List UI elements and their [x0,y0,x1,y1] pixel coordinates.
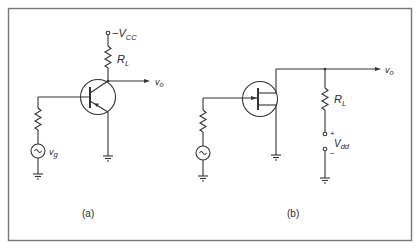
fet-transistor-icon [243,82,278,117]
source-resistor-icon [200,110,206,132]
vg-label: vg [49,147,59,159]
ground-icon [198,176,208,181]
vdd-minus-label: − [330,149,335,158]
vdd-label: Vdd [334,138,350,151]
circuit-figure: −VCC RL vo vg [0,0,420,251]
vo-label-a: vo [155,77,164,89]
vdd-plus-terminal-icon [323,132,327,136]
rl-label-b: RL [334,93,346,108]
rl-label-a: RL [117,53,129,68]
vcc-terminal-icon [106,31,110,35]
load-resistor-icon [105,46,111,68]
panel-a-bjt-circuit: −VCC RL vo vg [31,27,164,219]
figure-frame [9,9,412,241]
vdd-minus-terminal-icon [323,147,327,151]
ground-icon [103,156,113,161]
output-arrow-icon [375,67,381,71]
output-arrow-icon [144,79,150,83]
panel-b-fet-circuit: vo RL + Vdd − [196,65,394,219]
vdd-plus-label: + [330,129,335,138]
load-resistor-icon [322,88,328,110]
caption-a: (a) [82,208,94,219]
vcc-label: −VCC [112,27,137,42]
ground-icon [271,155,281,160]
caption-b: (b) [287,208,299,219]
ground-icon [33,174,43,179]
source-resistor-icon [35,108,41,130]
ground-icon [320,178,330,183]
vo-label-b: vo [385,65,394,77]
